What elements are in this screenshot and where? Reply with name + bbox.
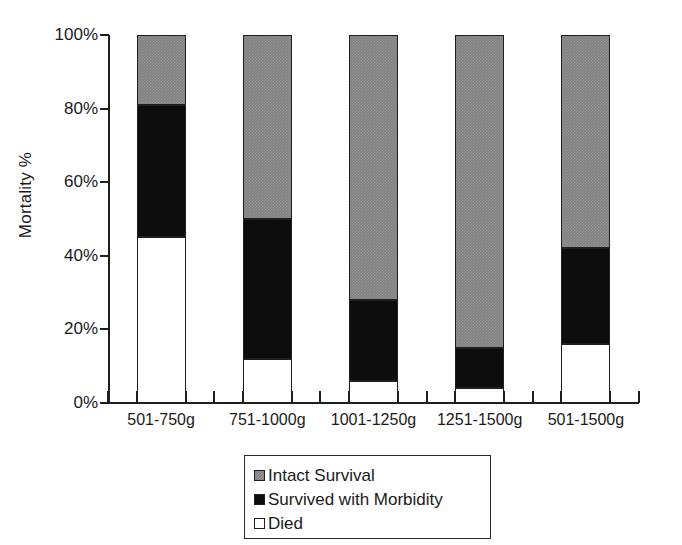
- x-axis-label-1251-1500g: 1251-1500g: [427, 410, 533, 429]
- y-axis-tick-label: 0%: [42, 394, 98, 411]
- y-axis-tick-label-wrap: 0%: [36, 394, 98, 411]
- x-axis-label-751-1000g: 751-1000g: [214, 410, 320, 429]
- x-axis-label-1001-1250g: 1001-1250g: [320, 410, 426, 429]
- x-axis-tick: [454, 391, 456, 403]
- black-swatch-icon: [254, 494, 265, 505]
- x-axis-tick: [532, 391, 534, 403]
- x-axis-tick: [503, 391, 505, 403]
- bar-segment-intact-survival: [561, 35, 610, 248]
- bar-segment-intact-survival: [455, 35, 504, 348]
- y-axis-tick: [100, 34, 109, 36]
- x-axis-tick: [242, 391, 244, 403]
- x-axis-tick: [107, 391, 109, 403]
- bar-segment-survived-with-morbidity: [349, 300, 398, 381]
- y-axis-tick-label: 80%: [42, 100, 98, 117]
- x-axis-label-501-1500g: 501-1500g: [533, 410, 639, 429]
- bar-segment-died: [243, 359, 292, 403]
- bar-segment-survived-with-morbidity: [561, 248, 610, 344]
- bar-segment-survived-with-morbidity: [243, 219, 292, 359]
- bar-501-750g: [137, 35, 186, 403]
- bar-segment-intact-survival: [349, 35, 398, 300]
- y-axis-tick-label-wrap: 80%: [36, 100, 98, 117]
- y-axis-tick-label: 40%: [42, 247, 98, 264]
- y-axis-tick-label: 20%: [42, 320, 98, 337]
- y-axis-tick-label-wrap: 40%: [36, 247, 98, 264]
- bar-1251-1500g: [455, 35, 504, 403]
- bar-segment-died: [561, 344, 610, 403]
- legend-label: Died: [268, 514, 303, 533]
- bar-1001-1250g: [349, 35, 398, 403]
- y-axis-tick: [100, 255, 109, 257]
- y-axis-tick-label: 60%: [42, 173, 98, 190]
- gray-swatch-icon: [254, 470, 265, 481]
- y-axis-tick: [100, 328, 109, 330]
- white-swatch-icon: [254, 518, 265, 529]
- bar-segment-intact-survival: [137, 35, 186, 105]
- legend-item-died[interactable]: Died: [254, 511, 490, 535]
- bar-segment-intact-survival: [243, 35, 292, 219]
- legend-label: Intact Survival: [268, 466, 375, 485]
- y-axis-line: [108, 35, 110, 404]
- x-axis-tick: [609, 391, 611, 403]
- y-axis-tick-label-wrap: 20%: [36, 320, 98, 337]
- x-axis-tick: [348, 391, 350, 403]
- legend-item-intact-survival[interactable]: Intact Survival: [254, 463, 490, 487]
- legend-label: Survived with Morbidity: [268, 490, 443, 509]
- x-axis-tick: [213, 391, 215, 403]
- y-axis-tick: [100, 108, 109, 110]
- bar-segment-died: [137, 237, 186, 403]
- bar-segment-survived-with-morbidity: [137, 105, 186, 237]
- bar-751-1000g: [243, 35, 292, 403]
- chart-legend: Intact SurvivalSurvived with MorbidityDi…: [244, 455, 491, 539]
- x-axis-tick: [319, 391, 321, 403]
- x-axis-tick: [638, 391, 640, 403]
- x-axis-tick: [560, 391, 562, 403]
- x-axis-tick: [291, 391, 293, 403]
- x-axis-tick: [185, 391, 187, 403]
- bar-segment-survived-with-morbidity: [455, 348, 504, 388]
- stacked-bar-chart: Mortality % 0%20%40%60%80%100% 501-750g7…: [0, 0, 682, 545]
- y-axis-tick-label-wrap: 60%: [36, 173, 98, 190]
- x-axis-label-501-750g: 501-750g: [108, 410, 214, 429]
- y-axis-title: Mortality %: [16, 125, 36, 265]
- y-axis-tick-label: 100%: [42, 26, 98, 43]
- bar-segment-died: [455, 388, 504, 403]
- y-axis-tick-label-wrap: 100%: [36, 26, 98, 43]
- legend-item-survived-with-morbidity[interactable]: Survived with Morbidity: [254, 487, 490, 511]
- x-axis-tick: [397, 391, 399, 403]
- y-axis-tick: [100, 181, 109, 183]
- x-axis-tick: [136, 391, 138, 403]
- x-axis-tick: [426, 391, 428, 403]
- bar-501-1500g: [561, 35, 610, 403]
- bar-segment-died: [349, 381, 398, 403]
